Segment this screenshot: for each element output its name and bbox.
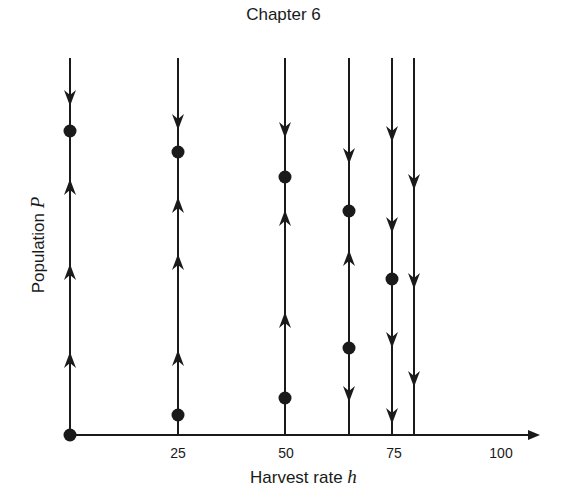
equilibrium-point xyxy=(172,409,185,422)
x-tick-25: 25 xyxy=(170,445,186,461)
equilibrium-point xyxy=(279,392,292,405)
phase-line-diagram: 25 50 75 100 xyxy=(0,0,567,501)
x-axis-variable: h xyxy=(347,466,357,487)
phase-line-h65 xyxy=(343,58,356,435)
equilibrium-point xyxy=(64,429,77,442)
equilibrium-point xyxy=(343,205,356,218)
equilibrium-point xyxy=(386,273,399,286)
x-axis-arrowhead-icon xyxy=(528,430,540,440)
x-tick-50: 50 xyxy=(278,445,294,461)
equilibrium-point xyxy=(343,342,356,355)
x-axis-label-text: Harvest rate xyxy=(250,468,347,487)
phase-line-h0 xyxy=(64,58,77,442)
x-axis-label: Harvest rate h xyxy=(250,466,357,488)
equilibrium-point xyxy=(172,146,185,159)
equilibrium-point xyxy=(64,125,77,138)
phase-line-h50 xyxy=(279,58,292,435)
phase-line-h80 xyxy=(408,58,420,435)
phase-line-h25 xyxy=(172,58,185,435)
phase-line-h75 xyxy=(386,58,399,435)
x-tick-75: 75 xyxy=(386,445,402,461)
x-tick-labels: 25 50 75 100 xyxy=(170,445,513,461)
equilibrium-point xyxy=(279,171,292,184)
x-tick-100: 100 xyxy=(489,445,513,461)
